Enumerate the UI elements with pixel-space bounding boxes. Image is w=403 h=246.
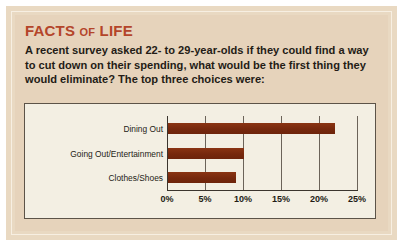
- x-axis-line: [167, 190, 358, 191]
- screenshot-root: FACTS OF LIFE A recent survey asked 22- …: [0, 0, 403, 246]
- category-label: Clothes/Shoes: [109, 173, 163, 183]
- gridline-25pct: [357, 116, 358, 190]
- chart-panel: Dining OutGoing Out/EntertainmentClothes…: [24, 103, 376, 219]
- category-label: Dining Out: [123, 124, 163, 134]
- page-title-of: OF: [80, 26, 96, 38]
- bar-chart-plot: [167, 116, 357, 190]
- x-tick-label: 0%: [160, 194, 173, 204]
- page-title-part-2: LIFE: [95, 22, 133, 39]
- category-label-column: Dining OutGoing Out/EntertainmentClothes…: [25, 116, 163, 190]
- bar: [168, 123, 335, 134]
- x-tick-label: 15%: [272, 194, 290, 204]
- page-title-part-1: FACTS: [25, 22, 80, 39]
- category-label: Going Out/Entertainment: [70, 149, 163, 159]
- body-text: A recent survey asked 22- to 29-year-old…: [25, 43, 377, 87]
- x-tick-label: 10%: [234, 194, 252, 204]
- facts-of-life-card: FACTS OF LIFE A recent survey asked 22- …: [15, 15, 388, 231]
- bar: [168, 148, 244, 159]
- page-title: FACTS OF LIFE: [25, 22, 133, 39]
- x-tick-label: 25%: [348, 194, 366, 204]
- x-tick-label: 20%: [310, 194, 328, 204]
- bar: [168, 172, 236, 183]
- x-tick-label: 5%: [198, 194, 211, 204]
